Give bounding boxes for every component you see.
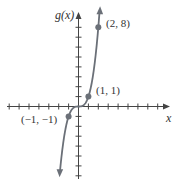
y-axis-label: g(x) xyxy=(55,9,74,21)
point-label-2-8: (2, 8) xyxy=(106,18,130,29)
curve-arrow-down-icon xyxy=(57,169,64,177)
graph-canvas xyxy=(0,0,184,190)
y-axis-arrow-icon xyxy=(76,12,82,19)
x-axis xyxy=(7,104,166,110)
x-axis-label: x xyxy=(166,112,171,124)
curve-arrow-up-icon xyxy=(96,6,103,14)
data-point xyxy=(95,24,101,30)
data-point xyxy=(66,113,72,119)
point-label-1-1: (1, 1) xyxy=(96,85,120,96)
data-point xyxy=(85,94,91,100)
y-axis xyxy=(76,17,82,179)
x-axis-arrow-icon xyxy=(163,104,170,110)
point-label-neg1-neg1: (−1, −1) xyxy=(21,114,57,125)
